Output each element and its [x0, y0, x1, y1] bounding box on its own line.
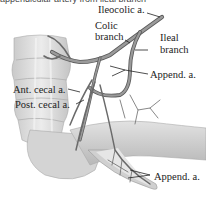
label-appendicular-artery-upper: Append. a. [150, 69, 196, 80]
label-colic-branch-line2: branch [95, 31, 124, 42]
ileum-shape [70, 121, 206, 165]
label-colic-branch-line1: Colic [95, 20, 118, 31]
label-appendicular-artery-lower: Append. a. [154, 171, 200, 182]
label-ileal-branch-line1: Ileal [160, 32, 179, 43]
anatomy-figure: appendicular artery from ileal branch [0, 0, 206, 202]
label-posterior-cecal-artery: Post. cecal a. [15, 99, 70, 110]
label-anterior-cecal-artery: Ant. cecal a. [13, 84, 65, 95]
label-ileal-branch-line2: branch [160, 44, 189, 55]
label-ileocolic-artery: Ileocolic a. [98, 4, 145, 15]
